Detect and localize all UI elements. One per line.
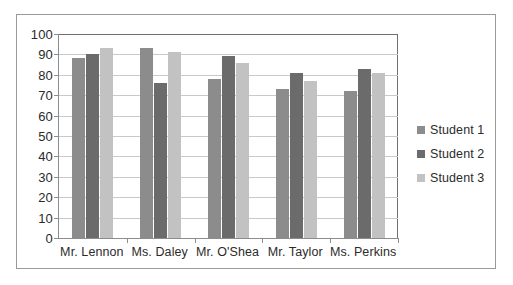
x-tick-label: Mr. O'Shea <box>196 245 259 259</box>
plot-area <box>58 34 398 239</box>
y-axis: 1009080706050403020100 <box>17 15 57 268</box>
legend-swatch-icon <box>417 150 425 158</box>
x-axis: Mr. LennonMs. DaleyMr. O'SheaMr. TaylorM… <box>58 241 397 263</box>
y-tick-label: 30 <box>38 169 53 184</box>
bar-group <box>127 34 195 238</box>
y-tick-label: 10 <box>38 210 53 225</box>
y-tick-label: 90 <box>38 47 53 62</box>
bar <box>372 73 385 238</box>
bar <box>304 81 317 238</box>
x-tick-label: Ms. Perkins <box>330 245 396 259</box>
y-tick-label: 20 <box>38 190 53 205</box>
bar <box>290 73 303 238</box>
legend-item[interactable]: Student 2 <box>417 142 495 166</box>
y-tick-label: 100 <box>31 27 53 42</box>
bar-group <box>262 34 330 238</box>
bar <box>72 58 85 238</box>
chart-legend: Student 1Student 2Student 3 <box>417 118 495 190</box>
bar <box>154 83 167 238</box>
bar <box>276 89 289 238</box>
y-tick-label: 70 <box>38 88 53 103</box>
y-tick-mark <box>54 238 59 239</box>
bar <box>100 48 113 238</box>
x-tick-label: Mr. Lennon <box>60 245 124 259</box>
x-tick-label: Mr. Taylor <box>268 245 323 259</box>
bar <box>344 91 357 238</box>
y-tick-label: 40 <box>38 149 53 164</box>
legend-item[interactable]: Student 1 <box>417 118 495 142</box>
legend-item[interactable]: Student 3 <box>417 166 495 190</box>
legend-item-label: Student 3 <box>430 171 484 185</box>
y-tick-label: 0 <box>46 231 53 246</box>
bar-group <box>195 34 263 238</box>
legend-swatch-icon <box>417 126 425 134</box>
legend-item-label: Student 1 <box>430 123 484 137</box>
y-tick-label: 80 <box>38 67 53 82</box>
bar <box>208 79 221 238</box>
bars-layer <box>59 34 398 238</box>
x-tick-label: Ms. Daley <box>131 245 187 259</box>
legend-item-label: Student 2 <box>430 147 484 161</box>
chart-plot-wrapper: 1009080706050403020100 Mr. LennonMs. Dal… <box>17 15 495 268</box>
bar-group <box>330 34 398 238</box>
y-tick-label: 60 <box>38 108 53 123</box>
bar <box>140 48 153 238</box>
bar <box>358 69 371 238</box>
bar <box>222 56 235 238</box>
y-tick-label: 50 <box>38 129 53 144</box>
x-tick-mark <box>398 238 399 243</box>
chart-frame: 1009080706050403020100 Mr. LennonMs. Dal… <box>16 14 496 269</box>
bar <box>168 52 181 238</box>
legend-swatch-icon <box>417 174 425 182</box>
bar <box>86 54 99 238</box>
bar <box>236 63 249 238</box>
bar-group <box>59 34 127 238</box>
